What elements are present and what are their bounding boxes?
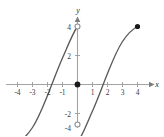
x-tick-label--1: -1 [59,88,65,97]
x-tick-label-3: 3 [121,88,125,97]
closed-point-origin-icon [75,82,81,88]
y-tick-label--2: -2 [65,110,71,119]
x-axis-label: x [154,80,159,89]
y-tick-label--4: -4 [65,124,71,133]
x-tick-label-1: 1 [91,88,95,97]
y-axis [75,17,81,129]
y-tick-label-2: 2 [67,52,71,61]
open-endpoint-lower-icon [75,122,80,127]
y-axis-label: y [75,6,80,15]
closed-endpoint-right-icon [135,24,140,29]
x-tick-label-2: 2 [106,88,110,97]
curve-left-branch [18,27,78,137]
y-axis-arrowhead [75,17,81,23]
x-tick-label--4: -4 [14,88,20,97]
x-tick-label--2: -2 [44,88,50,97]
x-axis-arrowhead [149,82,155,88]
graph-figure: -4 -3 -2 -1 1 2 3 4 4 2 -2 -4 x y [0,0,164,136]
open-endpoint-upper-icon [75,24,80,29]
coordinate-plane: -4 -3 -2 -1 1 2 3 4 4 2 -2 -4 x y [0,0,164,136]
curve-right-branch [78,27,138,137]
x-tick-label-4: 4 [136,88,140,97]
x-tick-label--3: -3 [29,88,35,97]
y-tick-label-4: 4 [67,23,71,32]
